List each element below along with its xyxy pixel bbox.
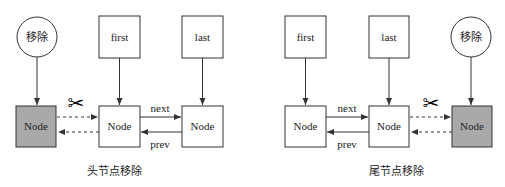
removed-node-label: Node (24, 120, 48, 132)
last-pointer-box: last (182, 16, 223, 58)
last-label: last (381, 31, 396, 43)
node-2: Node (182, 106, 223, 147)
removed-node-label: Node (460, 120, 484, 132)
node-1-label: Node (108, 120, 132, 132)
node-1: Node (99, 106, 140, 147)
removed-head-node: Node (16, 106, 56, 147)
scissors-icon: ✂ (423, 91, 440, 115)
node-2: Node (369, 106, 409, 147)
head-removal-diagram: 移除 first last Node ✂ Node Node nex (16, 16, 223, 178)
remove-label: 移除 (26, 30, 48, 43)
linked-list-removal-diagram: 移除 first last Node ✂ Node Node nex (0, 0, 505, 187)
next-label: next (338, 102, 357, 114)
first-pointer-box: first (285, 16, 326, 58)
node-2-label: Node (191, 120, 215, 132)
head-removal-caption: 头节点移除 (87, 164, 142, 178)
tail-removal-diagram: first last 移除 Node Node next prev ✂ (285, 16, 492, 178)
last-label: last (195, 31, 210, 43)
remove-label: 移除 (460, 30, 482, 43)
tail-removal-caption: 尾节点移除 (369, 164, 424, 178)
node-1-label: Node (294, 120, 318, 132)
first-pointer-box: first (99, 16, 140, 58)
prev-label: prev (150, 138, 170, 150)
node-2-label: Node (377, 120, 401, 132)
prev-label: prev (337, 138, 357, 150)
first-label: first (297, 31, 315, 43)
node-1: Node (285, 106, 326, 147)
next-label: next (151, 102, 170, 114)
remove-circle: 移除 (17, 17, 57, 57)
scissors-icon: ✂ (68, 91, 85, 115)
removed-tail-node: Node (452, 106, 492, 147)
first-label: first (111, 31, 129, 43)
last-pointer-box: last (369, 16, 409, 58)
remove-circle: 移除 (451, 17, 491, 57)
